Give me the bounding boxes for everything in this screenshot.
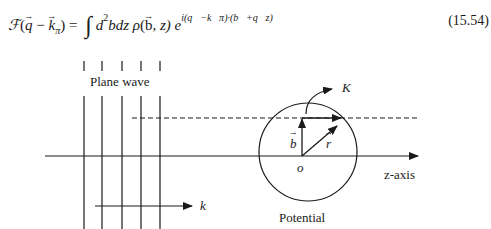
plane-wave-top-ticks: [84, 61, 160, 71]
plane-wave-lines: [84, 96, 160, 229]
z-axis-label: z-axis: [384, 167, 415, 183]
K-label: K: [342, 80, 351, 96]
r-label: r: [326, 136, 331, 152]
origin-label: o: [297, 160, 304, 176]
scattering-diagram: [0, 0, 491, 229]
potential-label: Potential: [279, 210, 325, 226]
plane-wave-label: Plane wave: [90, 74, 150, 90]
r-label-text: r: [326, 136, 331, 152]
b-label-text: b: [290, 136, 297, 152]
k-label: k: [200, 198, 206, 214]
b-label: b: [290, 136, 297, 152]
K-outgoing-arrow: [306, 89, 332, 114]
